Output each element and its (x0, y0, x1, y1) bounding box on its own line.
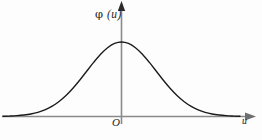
plot-canvas (0, 0, 262, 140)
y-axis-label-argument: (u) (104, 8, 122, 20)
y-axis-label: φ (u) (95, 9, 122, 21)
origin-label: O (112, 117, 120, 128)
phi-glyph: φ (95, 7, 104, 21)
gaussian-density-figure: φ (u) O u (0, 0, 262, 140)
x-axis-label: u (242, 116, 247, 126)
